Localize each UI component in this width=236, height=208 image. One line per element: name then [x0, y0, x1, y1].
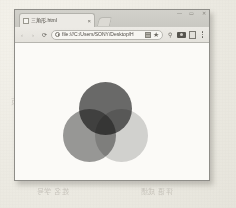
window-controls: — ▭ ✕ [176, 11, 207, 16]
bleed-through-text: 姓名 学号 [36, 186, 69, 196]
venn-circle-right [95, 109, 148, 162]
browser-window: 三角形.html × — ▭ ✕ ‹ › ⟳ file:///C:/Users/… [14, 9, 210, 181]
reload-icon[interactable]: ⟳ [40, 31, 48, 39]
menu-dot [202, 31, 204, 33]
extension-icon[interactable]: ⚲ [166, 31, 174, 39]
save-page-icon[interactable] [145, 32, 151, 38]
bookmark-star-icon[interactable]: ★ [153, 31, 159, 38]
browser-toolbar: ‹ › ⟳ file:///C:/Users/SONY/Desktop/H ★ … [15, 27, 209, 43]
menu-dot [202, 34, 204, 36]
close-icon[interactable]: × [87, 18, 91, 24]
browser-tab[interactable]: 三角形.html × [19, 13, 95, 27]
info-circle-icon[interactable] [55, 32, 60, 37]
minimize-icon[interactable]: — [176, 11, 183, 16]
back-icon[interactable]: ‹ [18, 31, 26, 39]
url-text: file:///C:/Users/SONY/Desktop/H [62, 31, 143, 38]
tab-strip: 三角形.html × — ▭ ✕ [15, 10, 209, 27]
page-viewport [15, 43, 209, 180]
page-favicon-icon [23, 18, 29, 24]
bleed-through-text: 评语 成绩 [140, 186, 173, 196]
venn-diagram [63, 82, 149, 164]
address-bar[interactable]: file:///C:/Users/SONY/Desktop/H ★ [51, 30, 163, 40]
forward-icon[interactable]: › [29, 31, 37, 39]
maximize-icon[interactable]: ▭ [188, 11, 195, 16]
new-tab-button[interactable] [97, 17, 112, 26]
menu-dot [202, 36, 204, 38]
menu-icon[interactable] [199, 31, 206, 38]
close-window-icon[interactable]: ✕ [200, 11, 207, 16]
webcam-icon[interactable] [177, 32, 186, 38]
tab-title: 三角形.html [31, 17, 85, 24]
reader-icon[interactable] [189, 31, 196, 39]
